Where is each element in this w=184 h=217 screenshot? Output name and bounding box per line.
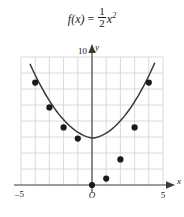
- data-point: [61, 124, 67, 130]
- parabola-figure: f(x)=12x2: [0, 0, 184, 217]
- data-point: [89, 182, 95, 188]
- x-min-tick-label: –5: [14, 189, 25, 199]
- data-point: [132, 124, 138, 130]
- equation-exponent: 2: [112, 11, 116, 20]
- equation-function-name: f(x): [68, 12, 85, 26]
- data-point: [117, 156, 123, 162]
- equation-equals-sign: =: [88, 12, 95, 26]
- x-axis-arrowhead: [166, 181, 175, 188]
- data-point: [146, 80, 152, 86]
- data-point: [103, 176, 109, 182]
- x-axis-label: x: [176, 176, 181, 186]
- graph-plot-area: 10 y x –5 5 O: [0, 34, 184, 217]
- data-point: [32, 80, 38, 86]
- data-point: [75, 136, 81, 142]
- y-axis: [88, 44, 95, 193]
- x-max-tick-label: 5: [161, 190, 166, 200]
- function-equation: f(x)=12x2: [0, 6, 184, 29]
- origin-label: O: [89, 190, 96, 200]
- y-axis-label: y: [94, 42, 99, 52]
- y-tick-label-10: 10: [78, 46, 88, 56]
- equation-numerator: 1: [98, 6, 106, 17]
- data-point: [46, 104, 52, 110]
- equation-denominator: 2: [98, 18, 106, 29]
- equation-fraction: 12: [98, 6, 106, 29]
